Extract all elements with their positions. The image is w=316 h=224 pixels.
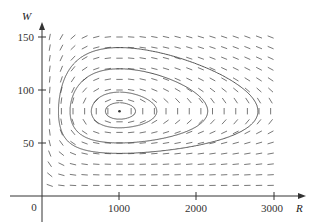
slope-segment <box>268 142 274 144</box>
slope-segment <box>82 57 88 60</box>
slope-segment <box>244 153 250 154</box>
slope-segment <box>233 88 238 92</box>
slope-segment <box>83 119 86 124</box>
slope-segment <box>49 76 50 82</box>
x-tick-label: 3000 <box>261 202 284 214</box>
slope-segment <box>82 142 88 144</box>
slope-segment <box>49 151 51 157</box>
slope-segment <box>210 88 215 92</box>
slope-segment <box>49 140 51 146</box>
slope-segment <box>222 119 226 124</box>
slope-segment <box>268 131 274 134</box>
slope-segment <box>140 89 146 91</box>
slope-segment <box>198 153 204 154</box>
slope-segment <box>151 36 157 37</box>
trajectory-orbit-2 <box>91 92 157 128</box>
slope-segment <box>244 36 250 38</box>
slope-segment <box>72 87 75 93</box>
slope-segment <box>222 88 227 92</box>
slope-segment <box>175 88 181 91</box>
slope-segment <box>93 47 99 49</box>
slope-segment <box>175 68 181 70</box>
slope-segment <box>93 131 99 133</box>
slope-segment <box>269 98 272 103</box>
slope-segment <box>221 142 227 144</box>
x-tick-label: 2000 <box>185 202 208 214</box>
slope-segment <box>128 132 134 133</box>
slope-segment <box>256 57 262 60</box>
slope-segment <box>244 57 250 60</box>
slope-segment <box>128 79 134 80</box>
direction-field-chart: 150 100 50 1000 2000 3000 0 R W <box>0 0 316 224</box>
slope-segment <box>49 87 50 93</box>
slope-segment <box>245 119 249 124</box>
slope-segment <box>256 46 262 48</box>
slope-segment <box>70 152 76 154</box>
slope-segment <box>233 57 239 60</box>
slope-segment <box>234 119 238 124</box>
y-axis-arrow-icon <box>39 22 45 30</box>
slope-segment <box>58 174 64 176</box>
slope-segment <box>59 152 64 156</box>
slope-segment <box>221 78 227 81</box>
slope-segment <box>268 88 273 92</box>
slope-segment <box>163 120 168 124</box>
slope-segment <box>222 98 226 103</box>
slope-segment <box>128 58 134 59</box>
slope-segment <box>233 164 239 165</box>
slope-segment <box>93 88 99 91</box>
trajectory-orbit-4 <box>59 48 258 154</box>
slope-segment <box>210 119 214 124</box>
slope-segment <box>83 98 86 104</box>
slope-segment <box>152 120 158 123</box>
y-axis-label: W <box>22 10 32 22</box>
slope-segment <box>49 55 50 61</box>
slope-segment <box>60 34 63 40</box>
slope-segment <box>151 78 157 80</box>
slope-segment <box>198 164 204 165</box>
slope-segment <box>221 67 227 70</box>
slope-segment <box>105 99 111 102</box>
slope-segment <box>105 132 111 133</box>
slope-segment <box>233 67 239 70</box>
slope-segment <box>245 78 250 81</box>
slope-segment <box>140 47 146 48</box>
origin-label: 0 <box>31 201 37 213</box>
slope-segment <box>140 121 146 124</box>
equilibrium-point <box>118 110 121 113</box>
slope-segment <box>187 98 191 103</box>
slope-segment <box>71 35 76 39</box>
slope-segment <box>151 47 157 48</box>
trajectories <box>59 48 258 154</box>
slope-segment <box>268 46 274 48</box>
slope-segment <box>221 47 227 49</box>
slope-segment <box>71 130 75 135</box>
slope-segment <box>198 78 204 81</box>
slope-segment <box>186 36 192 38</box>
slope-segment <box>256 153 262 154</box>
slope-segment <box>81 164 87 165</box>
slope-segment <box>140 132 146 133</box>
slope-segment <box>234 98 238 103</box>
slope-segment <box>82 67 87 71</box>
slope-segment <box>221 36 227 38</box>
slope-segment <box>82 46 88 49</box>
slope-segment <box>163 36 169 37</box>
slope-segment <box>82 153 88 154</box>
slope-segment <box>151 68 157 70</box>
slope-segment <box>105 121 111 123</box>
slope-segment <box>269 119 273 124</box>
slope-segment <box>198 47 204 49</box>
slope-segment <box>47 184 53 186</box>
slope-segment <box>186 47 192 49</box>
slope-segment <box>105 37 111 38</box>
slope-segment <box>105 58 111 59</box>
slope-segment <box>163 47 169 48</box>
slope-segment <box>93 142 99 143</box>
slope-segment <box>268 36 274 38</box>
slope-segment <box>175 98 179 103</box>
slope-segment <box>256 131 262 134</box>
slope-segment <box>209 164 215 165</box>
slope-segment <box>59 163 65 166</box>
slope-segment <box>244 164 250 165</box>
